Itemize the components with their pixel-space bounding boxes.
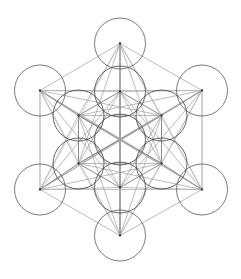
node-dot-inner-upper-right [160,114,162,116]
metatron-cube-canvas [0,0,241,279]
node-dot-outer-lower-right [201,188,203,190]
node-dot-inner-upper-left [77,114,79,116]
node-dot-inner-lower-left [77,162,79,164]
node-dot-outer-top [119,42,121,44]
node-dot-inner-bottom [119,186,121,188]
node-dot-outer-lower-left [39,188,41,190]
node-dot-inner-lower-right [160,162,162,164]
node-dot-outer-upper-left [39,89,41,91]
node-dot-outer-upper-right [201,89,203,91]
node-dot-outer-bottom [119,234,121,236]
metatrons-cube-figure [0,0,241,279]
node-dot-inner-top [119,90,121,92]
